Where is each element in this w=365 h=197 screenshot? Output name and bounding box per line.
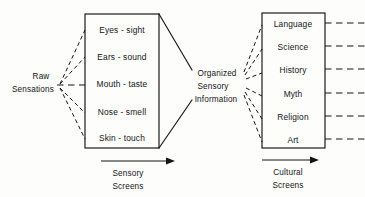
cultural-output-lines: [325, 23, 365, 139]
organized-info-label-line3: Information: [195, 95, 238, 104]
sensory-row-label: Skin - touch: [99, 133, 145, 143]
diagram-canvas: Eyes - sight Ears - sound Mouth - taste …: [0, 0, 365, 197]
connector-raw-to-eyes: [60, 30, 85, 84]
raw-sensations-label-line2: Sensations: [12, 85, 54, 94]
connector-info-to-myth: [246, 88, 262, 96]
cultural-screens-arrow-label-line2: Screens: [272, 181, 303, 190]
sensory-screens-arrow-label-line1: Sensory: [112, 169, 144, 178]
organized-info-connector-fan: [244, 25, 262, 142]
raw-sensations-label-line1: Raw: [33, 72, 50, 81]
connector-raw-to-nose: [60, 88, 85, 113]
sensory-screens-arrow-label-line2: Screens: [112, 182, 143, 191]
connector-info-to-language: [244, 25, 262, 72]
funnel-line-bottom: [159, 100, 192, 148]
funnel-line-top: [159, 14, 192, 70]
cultural-screens-box-outline: [262, 13, 325, 148]
organized-info-label-line1: Organized: [197, 69, 236, 78]
cultural-screens-arrow-head: [310, 157, 319, 164]
connector-raw-to-skin: [60, 88, 85, 139]
raw-sensations-connector-fan: [57, 30, 85, 139]
cultural-row-label: Religion: [277, 112, 309, 122]
cultural-row-label: Science: [278, 42, 309, 52]
perception-flow-diagram: Eyes - sight Ears - sound Mouth - taste …: [0, 0, 365, 197]
cultural-row-label: Art: [287, 135, 299, 145]
sensory-row-label: Ears - sound: [97, 52, 146, 62]
sensory-row-label: Eyes - sight: [99, 25, 145, 35]
cultural-row-label: Language: [274, 19, 313, 29]
connector-raw-to-ears: [60, 57, 85, 84]
cultural-screens-arrow-label-line1: Cultural: [273, 168, 302, 177]
sensory-row-label: Nose - smell: [98, 107, 146, 117]
cultural-screens-arrow-group: [262, 157, 319, 164]
connector-info-to-history: [246, 73, 262, 79]
cultural-row-label: History: [279, 65, 307, 75]
sensory-screens-arrow-group: [101, 158, 175, 165]
cultural-row-label: Myth: [284, 89, 303, 99]
connector-info-to-art: [244, 95, 262, 142]
sensory-row-label: Mouth - taste: [97, 79, 148, 89]
organized-info-label-line2: Sensory: [197, 82, 229, 91]
connector-info-to-religion: [245, 92, 262, 119]
sensory-screens-arrow-head: [166, 158, 175, 165]
